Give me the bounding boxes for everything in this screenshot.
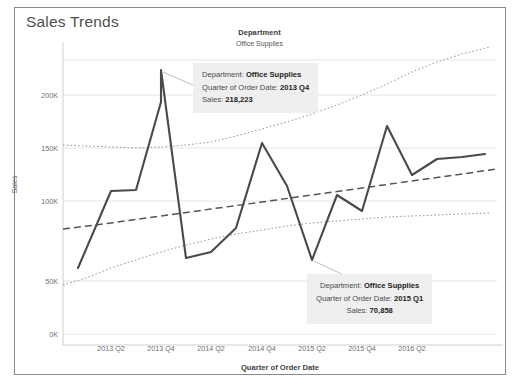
line-chart-canvas[interactable] [0, 0, 519, 390]
tooltip-peak-department-label: Department: [202, 70, 244, 79]
tooltip-trough-quarter-label: Quarter of Order Date: [316, 294, 392, 303]
tooltip-peak-sales-label: Sales: [202, 95, 223, 104]
tooltip-trough-department-label: Department: [320, 281, 362, 290]
tooltip-trough[interactable]: Department: Office Supplies Quarter of O… [307, 274, 432, 324]
tooltip-trough-sales-value: 70,858 [370, 306, 393, 315]
y-axis-label: Sales [10, 165, 19, 205]
ytick-200k: 200K [24, 91, 58, 100]
ytick-150k: 150K [24, 144, 58, 153]
tooltip-peak-sales-value: 218,223 [225, 95, 252, 104]
tooltip-peak-row-quarter: Quarter of Order Date: 2013 Q4 [202, 82, 309, 95]
tooltip-trough-row-sales: Sales: 70,858 [316, 305, 423, 318]
tooltip-trough-sales-label: Sales: [346, 306, 367, 315]
ytick-100k: 100K [24, 197, 58, 206]
tooltip-trough-quarter-value: 2015 Q1 [394, 294, 423, 303]
tooltip-peak-quarter-value: 2013 Q4 [280, 83, 309, 92]
tooltip-peak-quarter-label: Quarter of Order Date: [202, 83, 278, 92]
tooltip-peak-department-value: Office Supplies [246, 70, 301, 79]
tooltip-trough-row-department: Department: Office Supplies [316, 280, 423, 293]
ytick-0k: 0K [24, 330, 58, 339]
tooltip-trough-department-value: Office Supplies [364, 281, 419, 290]
tooltip-peak-row-sales: Sales: 218,223 [202, 94, 309, 107]
tooltip-peak-row-department: Department: Office Supplies [202, 69, 309, 82]
x-axis-label: Quarter of Order Date [60, 363, 500, 372]
trend-line [63, 169, 497, 229]
ytick-50k: 50K [24, 277, 58, 286]
xtick-2016-q2: 2016 Q2 [382, 344, 442, 353]
tooltip-peak[interactable]: Department: Office Supplies Quarter of O… [193, 63, 318, 113]
tooltip-trough-row-quarter: Quarter of Order Date: 2015 Q1 [316, 293, 423, 306]
